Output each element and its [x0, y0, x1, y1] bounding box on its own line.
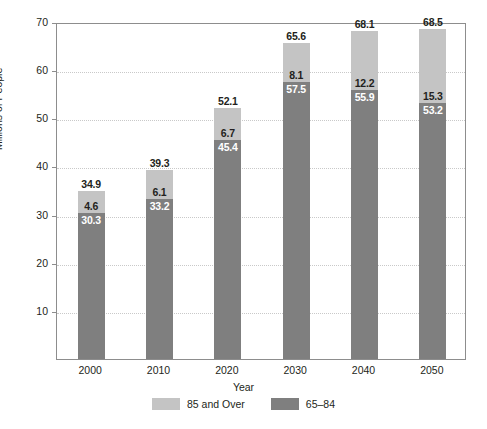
bar-segment-label-65-84: 53.2: [419, 104, 446, 116]
x-axis-title: Year: [0, 381, 487, 393]
bar-segment-65-84[interactable]: 55.9: [351, 90, 378, 359]
bar-segment-label-65-84: 30.3: [78, 214, 105, 226]
y-tick-label: 20: [20, 257, 48, 269]
y-tick-label: 50: [20, 112, 48, 124]
bar-segment-label-85-and-over: 12.2: [351, 77, 378, 89]
y-tick-label: 40: [20, 160, 48, 172]
y-tick-label: 10: [20, 305, 48, 317]
legend-item-65-84[interactable]: 65–84: [271, 398, 335, 410]
bar-2010[interactable]: 33.26.139.3: [146, 170, 173, 359]
bar-segment-85-and-over[interactable]: 8.1: [283, 43, 310, 82]
y-tick-label: 30: [20, 209, 48, 221]
legend-swatch-icon: [271, 398, 299, 410]
x-tick-label-2050: 2050: [407, 364, 457, 376]
bar-segment-85-and-over[interactable]: 6.1: [146, 170, 173, 199]
bar-segment-65-84[interactable]: 53.2: [419, 103, 446, 359]
bar-segment-65-84[interactable]: 30.3: [78, 213, 105, 359]
bar-segment-label-85-and-over: 8.1: [283, 69, 310, 81]
bar-segment-label-65-84: 33.2: [146, 200, 173, 212]
legend-swatch-icon: [152, 398, 180, 410]
bar-total-label: 34.9: [72, 178, 111, 190]
bar-segment-label-85-and-over: 4.6: [78, 200, 105, 212]
y-tick-label: 70: [20, 16, 48, 28]
bar-segment-label-85-and-over: 6.7: [214, 127, 241, 139]
legend-item-85-and-over[interactable]: 85 and Over: [152, 398, 245, 410]
bar-segment-65-84[interactable]: 57.5: [283, 82, 310, 359]
bar-2020[interactable]: 45.46.752.1: [214, 108, 241, 359]
bar-segment-85-and-over[interactable]: 12.2: [351, 31, 378, 90]
bar-segment-label-65-84: 57.5: [283, 83, 310, 95]
bar-2050[interactable]: 53.215.368.5: [419, 29, 446, 359]
x-tick-label-2030: 2030: [270, 364, 320, 376]
bar-segment-65-84[interactable]: 33.2: [146, 199, 173, 359]
bar-total-label: 68.5: [413, 16, 452, 28]
bar-total-label: 52.1: [208, 95, 247, 107]
bar-segment-label-65-84: 45.4: [214, 141, 241, 153]
bar-2000[interactable]: 30.34.634.9: [78, 191, 105, 359]
legend-label: 85 and Over: [187, 398, 245, 410]
bar-segment-85-and-over[interactable]: 4.6: [78, 191, 105, 213]
bar-total-label: 68.1: [345, 18, 384, 30]
x-tick-label-2010: 2010: [134, 364, 184, 376]
bar-segment-85-and-over[interactable]: 6.7: [214, 108, 241, 140]
bar-segment-label-85-and-over: 6.1: [146, 186, 173, 198]
bar-segment-label-65-84: 55.9: [351, 91, 378, 103]
gridline-60: [57, 72, 465, 73]
gridline-10: [57, 313, 465, 314]
y-tick-label: 60: [20, 64, 48, 76]
bar-total-label: 39.3: [140, 157, 179, 169]
bar-segment-85-and-over[interactable]: 15.3: [419, 29, 446, 103]
bar-segment-65-84[interactable]: 45.4: [214, 140, 241, 359]
bar-2030[interactable]: 57.58.165.6: [283, 43, 310, 359]
x-tick-label-2020: 2020: [202, 364, 252, 376]
stacked-bar-chart: Millions of People 10203040506070 30.34.…: [0, 0, 487, 429]
y-axis-title: Millions of People: [0, 68, 4, 150]
chart-legend: 85 and Over65–84: [0, 398, 487, 410]
bar-total-label: 65.6: [277, 30, 316, 42]
gridline-30: [57, 217, 465, 218]
bar-2040[interactable]: 55.912.268.1: [351, 31, 378, 359]
gridline-40: [57, 168, 465, 169]
plot-area: 30.34.634.933.26.139.345.46.752.157.58.1…: [56, 23, 466, 360]
gridline-50: [57, 120, 465, 121]
legend-label: 65–84: [306, 398, 335, 410]
x-tick-label-2000: 2000: [65, 364, 115, 376]
bar-segment-label-85-and-over: 15.3: [419, 90, 446, 102]
gridline-20: [57, 265, 465, 266]
x-tick-label-2040: 2040: [339, 364, 389, 376]
